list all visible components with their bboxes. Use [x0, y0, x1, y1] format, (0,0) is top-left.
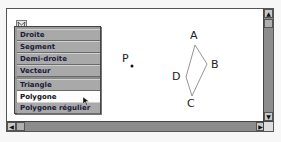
point-d-label: D	[172, 71, 180, 82]
scroll-down-button[interactable]: ▼	[264, 112, 273, 121]
scroll-left-button[interactable]: ◀	[7, 122, 16, 131]
vertical-scroll-thumb[interactable]	[264, 19, 273, 28]
quadrilateral-abcd	[186, 45, 207, 96]
menu-item-droite[interactable]: Droite	[17, 29, 100, 41]
vertical-scrollbar[interactable]: ▲ ▼	[263, 9, 273, 121]
horizontal-scrollbar[interactable]: ◀ ▶	[7, 121, 265, 131]
menu-item-vecteur[interactable]: Vecteur	[17, 65, 100, 77]
point-p-label: P	[122, 53, 129, 64]
menu-item-demi-droite[interactable]: Demi-droite	[17, 53, 100, 65]
menu-item-triangle[interactable]: Triangle	[17, 79, 100, 91]
point-a-label: A	[190, 30, 198, 41]
mouse-pointer-icon	[83, 97, 90, 106]
resize-grip-icon[interactable]	[263, 121, 273, 131]
construction-popup-menu: Droite Segment Demi-droite Vecteur Trian…	[14, 26, 101, 114]
horizontal-scroll-thumb[interactable]	[16, 122, 25, 131]
point-p	[131, 65, 134, 68]
scroll-up-button[interactable]: ▲	[264, 9, 273, 18]
point-b-label: B	[211, 59, 219, 70]
point-c-label: C	[187, 98, 195, 109]
menu-item-segment[interactable]: Segment	[17, 41, 100, 53]
